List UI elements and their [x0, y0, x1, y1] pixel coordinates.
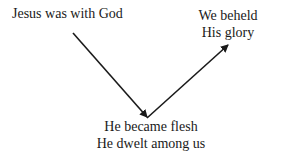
arrows-layer — [0, 0, 288, 160]
arrow-down-icon — [73, 33, 147, 117]
arrow-up-icon — [147, 45, 228, 118]
